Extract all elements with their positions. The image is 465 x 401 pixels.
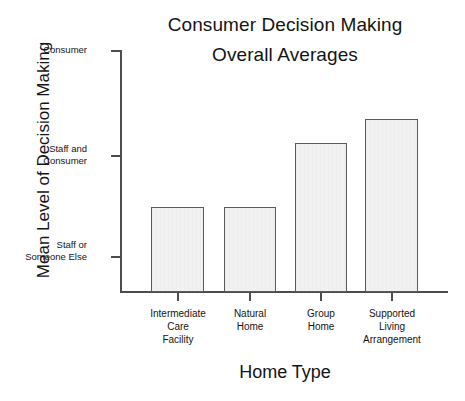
- y-tick-label-staff-and-consumer: Staff and Consumer: [17, 143, 87, 166]
- x-tick-mark-natural-home: [249, 292, 251, 301]
- y-tick-label-staff-and-consumer-line-1: Staff and: [49, 143, 87, 154]
- y-tick-label-staff-or-someone-else: Staff or Someone Else: [17, 239, 87, 262]
- x-tick-label-supported-living-arrangement: Supported Living Arrangement: [337, 307, 447, 346]
- bar-intermediate-care-facility[interactable]: [151, 207, 204, 292]
- x-axis-label: Home Type: [120, 362, 450, 383]
- bar-natural-home[interactable]: [224, 207, 276, 292]
- y-tick-label-consumer: Consumer: [17, 44, 87, 56]
- x-tick-mark-supported-living-arrangement: [391, 292, 393, 301]
- y-tick-mark-staff-and-consumer: [111, 155, 121, 157]
- x-tick-label-sla-line-2: Living: [337, 320, 447, 333]
- y-tick-label-staff-or-someone-else-line-2: Someone: [25, 251, 66, 262]
- x-tick-mark-group-home: [320, 292, 322, 301]
- bar-supported-living-arrangement[interactable]: [365, 119, 418, 292]
- chart-title-line-1: Consumer Decision Making: [120, 14, 450, 36]
- x-tick-mark-intermediate-care-facility: [177, 292, 179, 301]
- bar-chart-figure: Consumer Decision Making Overall Average…: [0, 0, 465, 401]
- bar-group-home[interactable]: [295, 143, 347, 292]
- y-tick-mark-staff-or-someone-else: [111, 256, 121, 258]
- y-tick-label-staff-and-consumer-line-2: Consumer: [43, 155, 87, 166]
- y-tick-label-staff-or-someone-else-line-1: Staff or: [57, 239, 87, 250]
- y-tick-label-staff-or-someone-else-line-3: Else: [69, 251, 87, 262]
- chart-title-line-2: Overall Averages: [120, 44, 450, 66]
- y-tick-mark-consumer: [111, 50, 121, 52]
- x-tick-label-sla-line-1: Supported: [337, 307, 447, 320]
- x-tick-label-icf-line-3: Facility: [123, 333, 233, 346]
- x-tick-label-sla-line-3: Arrangement: [337, 333, 447, 346]
- y-tick-label-consumer-line-1: Consumer: [43, 44, 87, 55]
